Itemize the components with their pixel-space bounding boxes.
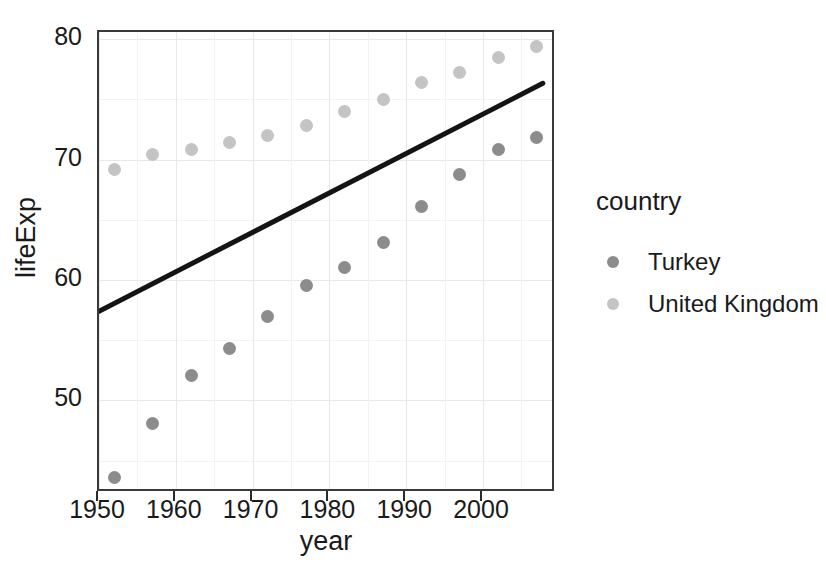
data-point bbox=[108, 471, 121, 484]
y-tick-label: 80 bbox=[28, 24, 82, 49]
legend-entries: TurkeyUnited Kingdom bbox=[594, 241, 819, 325]
x-tick-mark bbox=[96, 491, 98, 501]
legend-dot-icon bbox=[607, 298, 619, 310]
data-point bbox=[108, 163, 121, 176]
data-point bbox=[453, 168, 466, 181]
x-axis-title: year bbox=[98, 526, 554, 557]
x-tick-mark bbox=[173, 491, 175, 501]
legend-item[interactable]: Turkey bbox=[594, 241, 819, 283]
y-tick-label: 60 bbox=[28, 265, 82, 290]
legend-item-label: United Kingdom bbox=[648, 290, 819, 318]
x-tick-mark bbox=[480, 491, 482, 501]
legend-dot-icon bbox=[607, 256, 619, 268]
legend-key-turkey bbox=[594, 256, 632, 268]
data-point bbox=[185, 369, 198, 382]
legend-item-label: Turkey bbox=[648, 248, 720, 276]
data-point bbox=[146, 417, 159, 430]
data-point bbox=[492, 51, 505, 64]
chart-figure: lifeExp 50607080 19501960197019801990200… bbox=[0, 0, 826, 581]
y-axis-tick-labels: 50607080 bbox=[20, 0, 82, 500]
legend-key-united-kingdom bbox=[594, 298, 632, 310]
x-tick-mark bbox=[326, 491, 328, 501]
linear-fit-line bbox=[99, 32, 552, 489]
data-point bbox=[377, 93, 390, 106]
plot-panel bbox=[97, 30, 554, 491]
data-point bbox=[377, 236, 390, 249]
legend-title: country bbox=[594, 186, 819, 217]
x-tick-mark bbox=[250, 491, 252, 501]
legend-item[interactable]: United Kingdom bbox=[594, 283, 819, 325]
legend: country TurkeyUnited Kingdom bbox=[594, 186, 819, 325]
x-tick-mark bbox=[403, 491, 405, 501]
y-tick-label: 50 bbox=[28, 385, 82, 410]
y-tick-label: 70 bbox=[28, 145, 82, 170]
data-point bbox=[261, 310, 274, 323]
data-point bbox=[415, 200, 428, 213]
